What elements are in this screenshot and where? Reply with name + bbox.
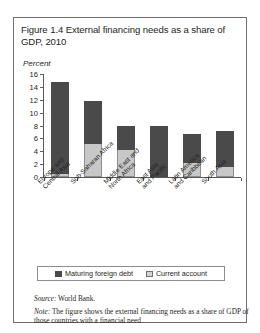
y-axis-tick-label: 2 bbox=[23, 160, 38, 169]
figure-title: Figure 1.4 External financing needs as a… bbox=[21, 24, 237, 49]
source-text: World Bank. bbox=[56, 294, 95, 303]
legend-label: Maturing foreign debt bbox=[65, 269, 133, 278]
chart-legend: Maturing foreign debtCurrent account bbox=[37, 266, 225, 281]
bar-segment-maturing-foreign-debt[interactable] bbox=[117, 126, 135, 150]
figure-note: Note: The figure shows the external fina… bbox=[34, 307, 256, 325]
y-axis-tick-label: 12 bbox=[23, 95, 38, 104]
figure-footer: Source: World Bank. Note: The figure sho… bbox=[34, 294, 256, 330]
source-label: Source: bbox=[34, 294, 56, 303]
source-note: Source: World Bank. bbox=[34, 294, 256, 303]
note-text: The figure shows the external financing … bbox=[34, 307, 249, 325]
legend-label: Current account bbox=[156, 269, 207, 278]
legend-entry[interactable]: Current account bbox=[146, 269, 207, 278]
y-axis-tick-label: 10 bbox=[23, 108, 38, 117]
figure-container: Figure 1.4 External financing needs as a… bbox=[13, 17, 247, 323]
y-axis-tick-label: 6 bbox=[23, 134, 38, 143]
y-axis-tick-label: 8 bbox=[23, 121, 38, 130]
bar-series-container bbox=[44, 74, 241, 177]
legend-swatch-icon bbox=[146, 271, 153, 277]
legend-entry[interactable]: Maturing foreign debt bbox=[55, 269, 133, 278]
note-label: Note: bbox=[34, 307, 50, 316]
y-axis-tick-label: 4 bbox=[23, 147, 38, 156]
bar-segment-maturing-foreign-debt[interactable] bbox=[84, 101, 102, 144]
y-axis-unit-label: Percent bbox=[23, 59, 51, 68]
y-axis-tick-label: 16 bbox=[23, 70, 38, 79]
y-axis-tick-label: 14 bbox=[23, 82, 38, 91]
x-axis-category-labels: Europe andCentral AsiaSub-Saharan Africa… bbox=[23, 178, 243, 240]
legend-swatch-icon bbox=[55, 271, 62, 277]
